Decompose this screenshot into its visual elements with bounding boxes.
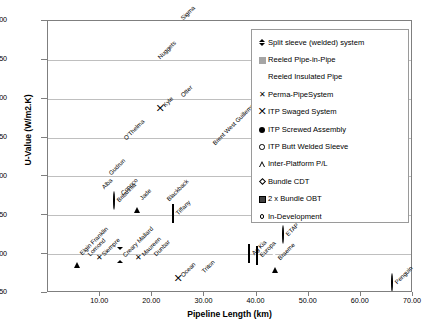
chart-root: U-Value (W/m2.K) 0.501.001.502.002.503.0… [0, 0, 425, 328]
marker-circle-filled [259, 127, 265, 133]
legend-item-6[interactable]: ITP Butt Welded Sleeve [256, 138, 405, 155]
data-point[interactable] [248, 245, 250, 263]
legend-label: Reeled Insulated Pipe [268, 73, 342, 81]
legend-item-8[interactable]: Bundle CDT [256, 173, 405, 190]
y-tick-label: 4.00 [0, 16, 7, 23]
legend-label: Reeled Pipe-in-Pipe [268, 56, 336, 64]
marker-diamond-open [256, 246, 258, 265]
data-point[interactable] [113, 192, 115, 210]
x-tick-label: 40.00 [233, 297, 279, 304]
data-point-label: Sigma [180, 5, 197, 22]
y-tick-label: 2.00 [0, 172, 7, 179]
marker-triangle-open [134, 190, 140, 213]
y-tick-label: 2.50 [0, 133, 7, 140]
legend-label: ITP Screwed Assembly [268, 126, 346, 134]
legend-marker [256, 40, 268, 46]
marker-circle-open [113, 191, 115, 210]
data-point-label: Braeme [277, 242, 297, 262]
x-tick-label: 30.00 [180, 297, 226, 304]
marker-diamond-open [258, 178, 265, 185]
data-point[interactable] [282, 226, 284, 244]
marker-circle-small-open [282, 225, 284, 244]
x-tick-label: 70.00 [389, 297, 425, 304]
y-tick-label: 0.50 [0, 288, 7, 295]
data-point[interactable] [117, 247, 123, 265]
marker-diamond-filled [259, 36, 265, 42]
x-tick-label: 60.00 [337, 297, 383, 304]
data-point[interactable] [172, 205, 174, 223]
legend-item-0[interactable]: Split sleeve (welded) system [256, 34, 405, 51]
legend-label: ITP Swaged System [268, 108, 337, 116]
legend-label: Split sleeve (welded) system [268, 39, 364, 47]
y-tick-mark [41, 292, 47, 293]
x-axis-title: Pipeline Length (km) [47, 309, 412, 319]
data-point-label: Tiffany [175, 199, 192, 216]
data-point[interactable] [74, 245, 80, 263]
legend-marker [256, 179, 268, 184]
legend-marker: ⨉ [256, 109, 268, 115]
data-point[interactable] [134, 190, 140, 208]
marker-swaged: ⨉ [259, 109, 265, 115]
data-point-label: Alba [101, 177, 114, 190]
data-point-label: Jade [138, 188, 152, 202]
marker-circle-open [259, 144, 265, 150]
legend-label: Perma-PipeSystem [268, 91, 333, 99]
x-tick-mark [203, 292, 204, 296]
legend-item-7[interactable]: Inter-Platform P/L [256, 156, 405, 173]
legend-item-1[interactable]: Reeled Pipe-in-Pipe [256, 51, 405, 68]
x-tick-mark [151, 292, 152, 296]
x-tick-label: 50.00 [285, 297, 331, 304]
data-point[interactable]: ✕ [96, 246, 103, 264]
data-point[interactable] [256, 247, 258, 265]
legend-item-4[interactable]: ⨉ITP Swaged System [256, 104, 405, 121]
y-tick-label: 1.00 [0, 250, 7, 257]
data-point-label: Brent West Guillemot [211, 101, 256, 146]
data-point[interactable]: ⨉ [175, 267, 181, 285]
marker-diamond-open [248, 244, 250, 263]
marker-x: ✕ [259, 92, 266, 98]
x-tick-mark [412, 292, 413, 296]
marker-swaged: ⨉ [157, 104, 163, 113]
data-point[interactable] [391, 274, 393, 292]
x-tick-label: 10.00 [76, 297, 122, 304]
data-point-label: Gudrun [108, 158, 127, 177]
y-axis-title: U-Value (W/m2.K) [23, 55, 33, 205]
legend-item-3[interactable]: ✕Perma-PipeSystem [256, 86, 405, 103]
legend-item-2[interactable]: Reeled Insulated Pipe [256, 69, 405, 86]
x-tick-label: 20.00 [128, 297, 174, 304]
x-tick-mark [256, 292, 257, 296]
legend-label: In-Development [268, 213, 322, 221]
legend-marker [256, 144, 268, 150]
legend-item-5[interactable]: ITP Screwed Assembly [256, 121, 405, 138]
legend-label: Inter-Platform P/L [268, 160, 328, 168]
data-point-label: Penguin [394, 265, 414, 285]
marker-circle-small-open [391, 273, 393, 292]
x-tick-mark [308, 292, 309, 296]
legend-label: 2 x Bundle OBT [268, 195, 322, 203]
legend-marker [256, 196, 268, 203]
y-tick-label: 3.50 [0, 55, 7, 62]
data-point[interactable]: ✕ [135, 246, 142, 264]
legend-marker [256, 214, 268, 219]
legend-item-9[interactable]: 2 x Bundle OBT [256, 191, 405, 208]
chart-legend: Split sleeve (welded) systemReeled Pipe-… [251, 29, 409, 223]
marker-square-grey [259, 57, 266, 64]
x-tick-mark [99, 292, 100, 296]
legend-marker [256, 57, 268, 64]
data-point-label: Nuggets [157, 39, 178, 60]
legend-marker: ✕ [256, 92, 268, 98]
legend-label: Bundle CDT [268, 178, 309, 186]
legend-marker [256, 161, 268, 167]
marker-square-dark [259, 196, 266, 203]
data-point-label: Otter [180, 84, 194, 98]
legend-marker [256, 127, 268, 133]
y-tick-label: 1.50 [0, 211, 7, 218]
marker-triangle-open [272, 250, 278, 273]
data-point[interactable] [272, 250, 278, 268]
legend-item-10[interactable]: In-Development [256, 208, 405, 225]
legend-label: ITP Butt Welded Sleeve [268, 143, 348, 151]
x-tick-mark [360, 292, 361, 296]
marker-square-dark [172, 204, 174, 223]
data-point-label: Ocean [180, 261, 197, 278]
marker-triangle-open [259, 161, 265, 167]
